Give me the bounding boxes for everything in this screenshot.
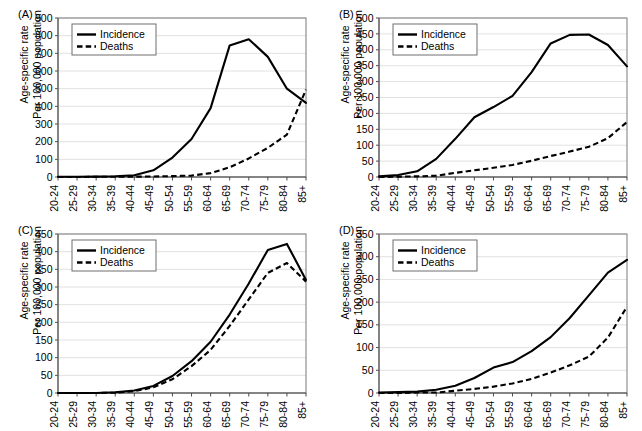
legend-label-incidence: Incidence: [421, 28, 466, 40]
panel-d-plot: 05010015020025030035020-2425-2930-3435-3…: [321, 216, 642, 431]
x-tick-label: 45-49: [464, 185, 476, 212]
panel-a: (A) Age-specific rate Per 100,000 popula…: [0, 0, 321, 215]
x-tick-label: 40-44: [124, 185, 136, 212]
x-tick-label: 35-39: [426, 401, 438, 428]
x-tick-label: 65-69: [541, 185, 553, 212]
x-tick-label: 70-74: [560, 401, 572, 428]
y-tick-label: 150: [35, 334, 53, 346]
y-tick-label: 300: [356, 250, 374, 262]
y-tick-label: 250: [356, 91, 374, 103]
x-tick-label: 20-24: [48, 185, 60, 212]
x-tick-label: 20-24: [48, 401, 60, 428]
y-tick-label: 0: [47, 387, 53, 399]
panel-c: (C) Age-specific rate Per 100,000 popula…: [0, 216, 321, 431]
x-tick-label: 25-29: [67, 185, 79, 212]
x-tick-label: 70-74: [239, 401, 251, 428]
y-tick-label: 200: [356, 296, 374, 308]
y-tick-label: 450: [35, 228, 53, 240]
x-tick-label: 40-44: [445, 401, 457, 428]
series-line-deaths: [58, 90, 306, 177]
panel-d: (D) Age-specific rate Per 100,000 popula…: [321, 216, 642, 431]
x-tick-label: 45-49: [464, 401, 476, 428]
legend-label-deaths: Deaths: [100, 40, 133, 52]
y-tick-label: 350: [35, 263, 53, 275]
x-tick-label: 60-64: [201, 185, 213, 212]
x-tick-label: 55-59: [503, 185, 515, 212]
y-tick-label: 100: [35, 153, 53, 165]
x-tick-label: 65-69: [220, 401, 232, 428]
x-tick-label: 70-74: [560, 185, 572, 212]
x-tick-label: 25-29: [388, 185, 400, 212]
y-tick-label: 350: [356, 228, 374, 240]
x-tick-label: 85+: [617, 401, 629, 419]
y-tick-label: 300: [35, 281, 53, 293]
x-tick-label: 55-59: [503, 401, 515, 428]
x-tick-label: 35-39: [105, 185, 117, 212]
y-tick-label: 450: [356, 28, 374, 40]
x-tick-label: 60-64: [522, 401, 534, 428]
x-tick-label: 80-84: [277, 185, 289, 212]
x-tick-label: 65-69: [220, 185, 232, 212]
x-tick-label: 65-69: [541, 401, 553, 428]
y-tick-label: 400: [35, 245, 53, 257]
y-tick-label: 50: [362, 364, 374, 376]
y-tick-label: 100: [35, 351, 53, 363]
y-tick-label: 800: [35, 29, 53, 41]
x-tick-label: 35-39: [426, 185, 438, 212]
legend-label-incidence: Incidence: [100, 28, 145, 40]
x-tick-label: 50-54: [484, 185, 496, 212]
x-tick-label: 60-64: [201, 401, 213, 428]
x-tick-label: 30-34: [407, 401, 419, 428]
y-tick-label: 50: [362, 155, 374, 167]
x-tick-label: 80-84: [598, 185, 610, 212]
x-tick-label: 25-29: [67, 401, 79, 428]
x-tick-label: 85+: [296, 401, 308, 419]
figure-panel-grid: (A) Age-specific rate Per 100,000 popula…: [0, 0, 642, 431]
x-tick-label: 50-54: [163, 401, 175, 428]
y-tick-label: 250: [356, 273, 374, 285]
y-tick-label: 0: [368, 387, 374, 399]
x-tick-label: 75-79: [258, 401, 270, 428]
y-tick-label: 350: [356, 59, 374, 71]
series-line-incidence: [58, 39, 306, 177]
x-tick-label: 35-39: [105, 401, 117, 428]
x-tick-label: 45-49: [143, 401, 155, 428]
x-tick-label: 55-59: [182, 401, 194, 428]
x-tick-label: 85+: [296, 185, 308, 203]
legend-label-deaths: Deaths: [100, 256, 133, 268]
panel-b: (B) Age-specific rate Per 100,000 popula…: [321, 0, 642, 215]
x-tick-label: 50-54: [163, 185, 175, 212]
y-tick-label: 700: [35, 47, 53, 59]
x-tick-label: 60-64: [522, 185, 534, 212]
panel-c-plot: 05010015020025030035040045020-2425-2930-…: [0, 216, 321, 431]
x-tick-label: 45-49: [143, 185, 155, 212]
legend-label-deaths: Deaths: [421, 40, 454, 52]
legend-label-incidence: Incidence: [421, 244, 466, 256]
x-tick-label: 30-34: [407, 185, 419, 212]
legend-label-incidence: Incidence: [100, 244, 145, 256]
x-tick-label: 80-84: [598, 401, 610, 428]
y-tick-label: 300: [35, 118, 53, 130]
x-tick-label: 50-54: [484, 401, 496, 428]
y-tick-label: 200: [35, 135, 53, 147]
y-tick-label: 500: [35, 82, 53, 94]
y-tick-label: 250: [35, 298, 53, 310]
x-tick-label: 25-29: [388, 401, 400, 428]
x-tick-label: 75-79: [258, 185, 270, 212]
x-tick-label: 55-59: [182, 185, 194, 212]
y-tick-label: 150: [356, 123, 374, 135]
y-tick-label: 400: [356, 43, 374, 55]
y-tick-label: 0: [47, 171, 53, 183]
y-tick-label: 200: [356, 107, 374, 119]
y-tick-label: 100: [356, 341, 374, 353]
panel-a-plot: 010020030040050060070080090020-2425-2930…: [0, 0, 321, 215]
series-line-deaths: [58, 263, 306, 393]
y-tick-label: 600: [35, 65, 53, 77]
series-line-incidence: [379, 35, 627, 177]
x-tick-label: 75-79: [579, 185, 591, 212]
x-tick-label: 85+: [617, 185, 629, 203]
x-tick-label: 20-24: [369, 401, 381, 428]
x-tick-label: 70-74: [239, 185, 251, 212]
y-tick-label: 0: [368, 171, 374, 183]
x-tick-label: 40-44: [124, 401, 136, 428]
